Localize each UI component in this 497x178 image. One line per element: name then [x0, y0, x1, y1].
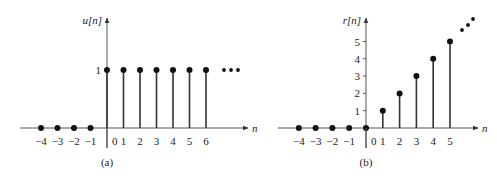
- continuation-dot: [229, 68, 233, 72]
- data-point: [413, 73, 419, 79]
- caption: (a): [101, 156, 114, 169]
- x-axis-label: n: [252, 122, 258, 134]
- y-tick-label: 1: [355, 105, 361, 117]
- continuation-dot: [460, 28, 464, 32]
- figure: u[n]n1−4−3−2−10123456(a) r[n]n12345−4−3−…: [0, 0, 497, 178]
- x-tick-label: 2: [137, 135, 143, 147]
- data-point: [313, 125, 319, 131]
- data-point: [154, 67, 160, 73]
- data-point: [137, 67, 143, 73]
- caption: (b): [360, 156, 373, 169]
- data-point: [71, 125, 77, 131]
- data-point: [88, 125, 94, 131]
- data-point: [187, 67, 193, 73]
- x-tick-label: 5: [447, 135, 453, 147]
- y-tick-label: 3: [355, 70, 361, 82]
- continuation-dot: [466, 23, 470, 27]
- x-tick-label: −4: [293, 135, 305, 147]
- plot-a-unit-step: u[n]n1−4−3−2−10123456(a): [20, 14, 258, 169]
- plot-b-unit-ramp: r[n]n12345−4−3−2−1012345(b): [278, 14, 488, 169]
- data-point: [170, 67, 176, 73]
- y-tick-label: 1: [96, 64, 102, 76]
- data-point: [329, 125, 335, 131]
- data-point: [430, 56, 436, 62]
- x-tick-label: 1: [380, 135, 386, 147]
- x-tick-label: −4: [35, 135, 47, 147]
- x-tick-label: 0: [371, 135, 377, 147]
- y-axis-label: u[n]: [82, 14, 102, 26]
- continuation-dot: [222, 68, 226, 72]
- data-point: [104, 67, 110, 73]
- y-tick-label: 4: [355, 53, 361, 65]
- x-tick-label: −1: [85, 135, 97, 147]
- data-point: [121, 67, 127, 73]
- continuation-dot: [471, 17, 475, 21]
- y-tick-label: 2: [355, 87, 361, 99]
- x-tick-label: 3: [414, 135, 420, 147]
- data-point: [380, 108, 386, 114]
- data-point: [38, 125, 44, 131]
- x-tick-label: 4: [170, 135, 176, 147]
- x-tick-label: −1: [343, 135, 355, 147]
- data-point: [397, 90, 403, 96]
- x-tick-label: −3: [52, 135, 64, 147]
- data-point: [203, 67, 209, 73]
- continuation-dot: [236, 68, 240, 72]
- y-tick-label: 5: [355, 36, 361, 48]
- x-tick-label: 1: [121, 135, 127, 147]
- x-tick-label: −2: [68, 135, 80, 147]
- y-axis-label: r[n]: [343, 14, 361, 26]
- data-point: [55, 125, 61, 131]
- data-point: [296, 125, 302, 131]
- x-tick-label: 3: [154, 135, 160, 147]
- x-tick-label: 5: [187, 135, 193, 147]
- x-tick-label: 4: [430, 135, 436, 147]
- x-tick-label: −2: [327, 135, 339, 147]
- x-tick-label: −3: [310, 135, 322, 147]
- x-tick-label: 0: [112, 135, 118, 147]
- x-tick-label: 6: [203, 135, 209, 147]
- data-point: [447, 39, 453, 45]
- data-point: [346, 125, 352, 131]
- x-tick-label: 2: [397, 135, 403, 147]
- x-axis-label: n: [482, 122, 488, 134]
